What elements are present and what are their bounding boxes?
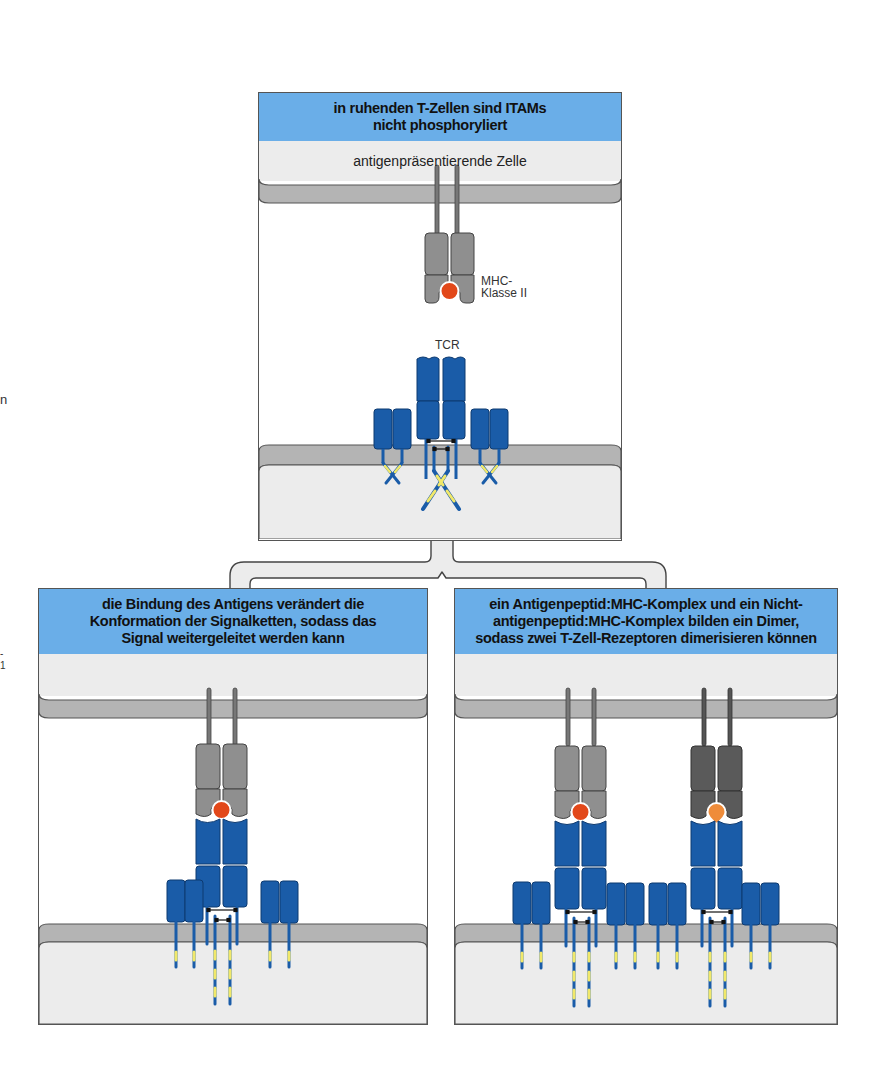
panel-conformational-change: die Bindung des Antigens verändert die K… (38, 588, 428, 1025)
header-text-conformation: die Bindung des Antigens verändert die K… (90, 596, 377, 647)
branch-arrow-icon (0, 0, 878, 620)
panel-header-dimerization: ein Antigenpeptid:MHC-Komplex und ein Ni… (455, 589, 837, 655)
panel-dimerization: ein Antigenpeptid:MHC-Komplex und ein Ni… (454, 588, 838, 1025)
diagram-conformation (39, 654, 427, 1024)
panel-header-conformation: die Bindung des Antigens verändert die K… (39, 589, 427, 655)
header-text-dimerization: ein Antigenpeptid:MHC-Komplex und ein Ni… (475, 596, 816, 647)
side-fragment-2: - (0, 648, 3, 659)
diagram-dimerization (455, 654, 837, 1024)
side-fragment-3: 1 (0, 660, 6, 671)
